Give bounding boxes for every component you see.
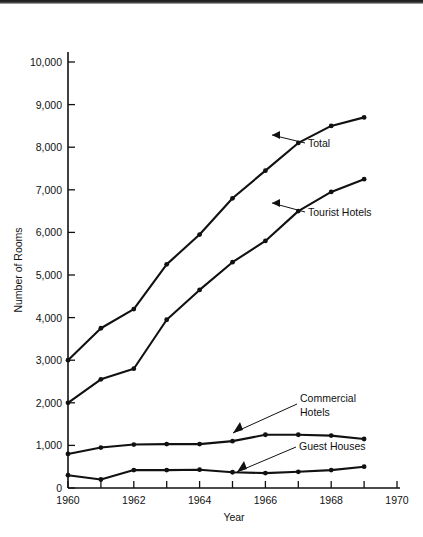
- y-tick-label-9000: 9,000: [36, 99, 62, 111]
- x-axis-title: Year: [223, 511, 245, 523]
- data-point: [230, 260, 235, 265]
- y-tick-label-6000: 6,000: [36, 226, 62, 238]
- arrowhead-tourist-hotels: [272, 199, 280, 207]
- data-point: [296, 432, 301, 437]
- x-tick-label-1970: 1970: [385, 494, 409, 506]
- x-axis-ticks: [68, 481, 397, 488]
- data-point: [164, 468, 169, 473]
- series-guest-houses: [66, 464, 367, 482]
- annotation-commercial-hotels-line2: Hotels: [300, 406, 330, 418]
- data-point: [263, 471, 268, 476]
- y-tick-label-4000: 4,000: [36, 312, 62, 324]
- series-line: [68, 467, 364, 480]
- data-point: [362, 464, 367, 469]
- annotation-total: Total: [308, 137, 330, 149]
- y-axis-title: Number of Rooms: [12, 227, 24, 312]
- data-point: [197, 288, 202, 293]
- series-group: [66, 115, 367, 482]
- y-axis-ticks: [68, 62, 75, 488]
- data-point: [164, 317, 169, 322]
- x-tick-label-1962: 1962: [122, 494, 146, 506]
- data-point: [66, 452, 71, 457]
- y-tick-label-2000: 2,000: [36, 397, 62, 409]
- leader-line-commercial-hotels: [233, 404, 297, 433]
- arrowhead-commercial-hotels: [233, 422, 243, 433]
- y-tick-label-0: 0: [56, 482, 62, 494]
- annotations-group: Total Tourist Hotels Commercial Hotels G…: [233, 131, 372, 472]
- data-point: [131, 442, 136, 447]
- data-point: [362, 115, 367, 120]
- x-tick-label-1966: 1966: [254, 494, 278, 506]
- data-point: [263, 239, 268, 244]
- data-point: [263, 168, 268, 173]
- data-point: [164, 262, 169, 267]
- y-tick-label-1000: 1,000: [36, 439, 62, 451]
- data-point: [296, 469, 301, 474]
- x-tick-label-1960: 1960: [56, 494, 80, 506]
- data-point: [164, 442, 169, 447]
- data-point: [131, 468, 136, 473]
- data-point: [329, 433, 334, 438]
- chart-svg: 01,0002,0003,0004,0005,0006,0007,0008,00…: [0, 0, 423, 537]
- x-axis-tick-labels: 196019621964196619681970: [56, 494, 409, 506]
- data-point: [263, 432, 268, 437]
- data-point: [99, 445, 104, 450]
- data-point: [230, 439, 235, 444]
- data-point: [66, 358, 71, 363]
- x-tick-label-1964: 1964: [188, 494, 212, 506]
- data-point: [329, 468, 334, 473]
- data-point: [131, 307, 136, 312]
- annotation-tourist-hotels: Tourist Hotels: [308, 206, 372, 218]
- data-point: [99, 477, 104, 482]
- data-point: [329, 124, 334, 129]
- y-tick-label-3000: 3,000: [36, 354, 62, 366]
- series-total: [66, 115, 367, 363]
- series-line: [68, 117, 364, 360]
- data-point: [99, 326, 104, 331]
- data-point: [197, 467, 202, 472]
- y-tick-label-10000: 10,000: [30, 56, 62, 68]
- data-point: [66, 400, 71, 405]
- y-tick-label-8000: 8,000: [36, 141, 62, 153]
- data-point: [66, 473, 71, 478]
- y-tick-label-7000: 7,000: [36, 184, 62, 196]
- annotation-guest-houses: Guest Houses: [299, 440, 366, 452]
- data-point: [230, 196, 235, 201]
- data-point: [197, 442, 202, 447]
- y-tick-label-5000: 5,000: [36, 269, 62, 281]
- arrowhead-total: [272, 131, 280, 139]
- data-point: [230, 470, 235, 475]
- data-point: [131, 366, 136, 371]
- line-chart: 01,0002,0003,0004,0005,0006,0007,0008,00…: [0, 0, 423, 537]
- data-point: [197, 232, 202, 237]
- annotation-commercial-hotels-line1: Commercial: [300, 392, 356, 404]
- x-tick-label-1968: 1968: [320, 494, 344, 506]
- data-point: [329, 190, 334, 195]
- data-point: [362, 177, 367, 182]
- data-point: [99, 377, 104, 382]
- y-axis-tick-labels: 01,0002,0003,0004,0005,0006,0007,0008,00…: [30, 56, 62, 494]
- arrowhead-guest-houses: [237, 461, 247, 472]
